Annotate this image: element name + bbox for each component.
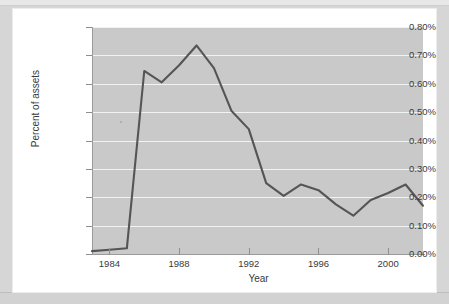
line-chart: Percent of assets Year 0.00%0.10%0.20%0.… (13, 9, 436, 292)
y-tick-label: 0.20% (372, 192, 436, 202)
y-tick-label: 0.30% (372, 164, 436, 174)
x-tick-label: 1992 (227, 258, 271, 269)
x-tick-label: 2000 (366, 258, 410, 269)
x-tick-label: 1984 (87, 258, 131, 269)
x-tick-label: 1988 (157, 258, 201, 269)
y-tick-label: 0.50% (372, 107, 436, 117)
page-bottom-band (0, 292, 449, 304)
y-tick-mark (86, 84, 92, 85)
page-top-band (0, 0, 449, 6)
x-tick-mark (318, 248, 319, 255)
y-tick-label: 0.40% (372, 136, 436, 146)
y-tick-label: 0.60% (372, 79, 436, 89)
x-tick-mark (249, 248, 250, 255)
x-tick-label: 1996 (296, 258, 340, 269)
y-tick-mark (86, 197, 92, 198)
y-tick-mark (86, 27, 92, 28)
x-tick-mark (388, 248, 389, 255)
y-tick-label: 0.80% (372, 22, 436, 32)
y-tick-mark (86, 55, 92, 56)
y-tick-label: 0.70% (372, 50, 436, 60)
x-tick-mark (109, 248, 110, 255)
y-axis-title: Percent of assets (30, 49, 41, 169)
figure-card: Percent of assets Year 0.00%0.10%0.20%0.… (13, 9, 436, 292)
y-tick-mark (86, 112, 92, 113)
y-tick-mark (86, 254, 92, 255)
x-axis-title: Year (92, 273, 425, 284)
x-tick-mark (179, 248, 180, 255)
y-tick-mark (86, 226, 92, 227)
y-tick-mark (86, 169, 92, 170)
y-tick-label: 0.10% (372, 221, 436, 231)
y-tick-mark (86, 141, 92, 142)
